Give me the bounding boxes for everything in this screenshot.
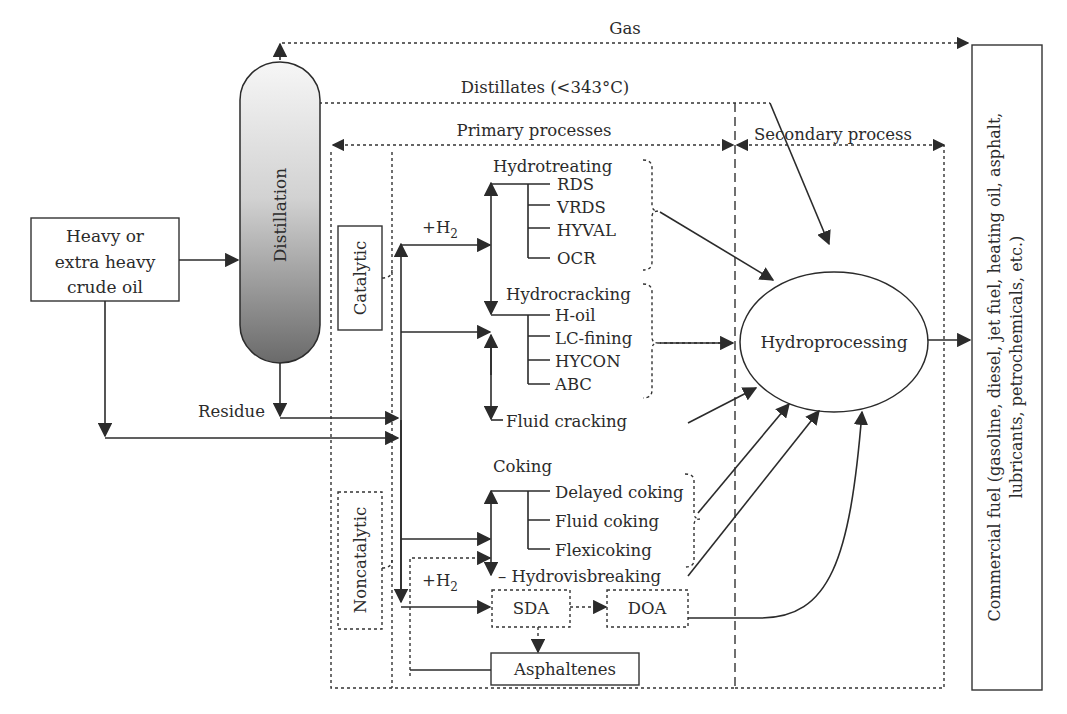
hydrotreating-tree	[491, 184, 550, 258]
gas-label: Gas	[609, 19, 641, 38]
feed-line3: crude oil	[67, 277, 143, 297]
secondary-process-label: Secondary process	[754, 125, 912, 144]
commercial-fuel-box: Commercial fuel (gasoline, diesel, jet f…	[972, 45, 1042, 690]
hydrovisbreaking-to-hydroprocessing-arrow	[688, 411, 819, 576]
noncatalytic-label-box: Noncatalytic	[338, 492, 382, 629]
catalytic-brace	[382, 270, 392, 278]
hydrotreating-item-rds: RDS	[557, 175, 594, 194]
hydrovisbreaking-label: – Hydrovisbreaking	[498, 567, 662, 586]
coking-brace	[685, 474, 700, 567]
hydrocracking-item-abc: ABC	[554, 375, 592, 394]
hydrotreating-item-vrds: VRDS	[556, 198, 606, 217]
hydroprocessing-node: Hydroprocessing	[740, 272, 928, 412]
hydrotreating-to-hydroprocessing-arrow	[660, 212, 773, 280]
svg-text:DOA: DOA	[628, 599, 668, 618]
coking-to-hydroprocessing-arrow	[698, 404, 789, 513]
distillates-label: Distillates (<343°C)	[461, 78, 629, 97]
coking-item-fluid: Fluid coking	[555, 512, 660, 531]
hydrocracking-item-lc-fining: LC-fining	[555, 329, 633, 348]
feed-line2: extra heavy	[55, 252, 156, 272]
h2-top-label: +H2	[422, 218, 458, 241]
feed-line1: Heavy or	[66, 226, 145, 246]
noncatalytic-brace	[382, 560, 392, 568]
hydrocracking-brace	[643, 284, 658, 398]
hydrocracking-item-hycon: HYCON	[555, 352, 621, 371]
hydrocracking-title: Hydrocracking	[506, 285, 631, 304]
doa-to-hydroprocessing-arrow	[688, 412, 862, 618]
feed-crude-oil-box: Heavy or extra heavy crude oil	[31, 218, 179, 301]
sda-box: SDA	[492, 590, 570, 627]
doa-box: DOA	[607, 590, 688, 627]
asphaltenes-box: Asphaltenes	[491, 653, 639, 685]
distillation-column: Distillation	[240, 62, 320, 363]
residue-label: Residue	[198, 402, 265, 421]
hydrotreating-item-ocr: OCR	[557, 249, 596, 268]
hydrotreating-brace	[643, 160, 658, 270]
catalytic-label-box: Catalytic	[338, 226, 382, 330]
fluid-cracking-label: Fluid cracking	[506, 412, 628, 431]
coking-tree	[491, 491, 550, 549]
distillation-label: Distillation	[270, 168, 290, 263]
refining-process-diagram: Primary processes Secondary process Gas …	[0, 0, 1067, 714]
gas-flow-line	[280, 43, 968, 60]
h2-bottom-label: +H2	[422, 571, 458, 594]
svg-text:Asphaltenes: Asphaltenes	[513, 660, 616, 679]
primary-processes-label: Primary processes	[457, 121, 612, 140]
coking-item-flexicoking: Flexicoking	[555, 541, 652, 560]
fluid-cracking-to-hydroprocessing-arrow	[688, 388, 756, 423]
svg-text:SDA: SDA	[513, 599, 551, 618]
coking-title: Coking	[493, 457, 552, 476]
coking-item-delayed: Delayed coking	[555, 483, 684, 502]
hydrotreating-title: Hydrotreating	[493, 157, 613, 176]
svg-text:Noncatalytic: Noncatalytic	[351, 507, 370, 613]
svg-text:Catalytic: Catalytic	[351, 241, 370, 316]
hydrocracking-item-h-oil: H-oil	[555, 306, 595, 325]
hydroprocessing-label: Hydroprocessing	[760, 332, 907, 352]
hydrocracking-tree	[491, 315, 550, 384]
hydrotreating-item-hyval: HYVAL	[557, 221, 616, 240]
commercial-fuel-line2: lubricants, petrochemicals, etc.)	[1007, 236, 1026, 499]
commercial-fuel-line1: Commercial fuel (gasoline, diesel, jet f…	[985, 113, 1004, 622]
